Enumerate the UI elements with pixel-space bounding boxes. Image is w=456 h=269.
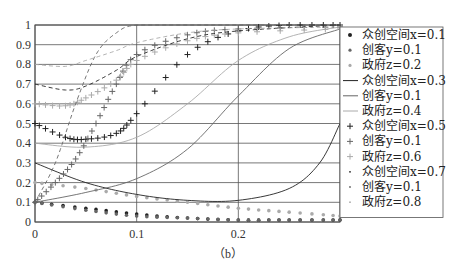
y-tick-label: 0.4 — [16, 136, 31, 150]
series-marker — [125, 193, 129, 197]
legend-item-label: 众创空间x=0.3 — [362, 74, 446, 88]
series-marker — [298, 218, 302, 222]
legend-item-label: 政府z=0.8 — [362, 194, 421, 209]
legend-item-label: 众创空间x=0.7 — [362, 165, 446, 179]
series-marker — [237, 206, 241, 210]
series-marker — [84, 208, 88, 212]
series-marker — [84, 187, 88, 191]
series-marker — [322, 218, 326, 222]
series-marker — [135, 214, 139, 218]
series-marker — [206, 203, 210, 207]
series-marker — [186, 216, 190, 220]
series-marker — [226, 218, 230, 222]
legend-item-label: 政府z=0.2 — [362, 57, 421, 72]
series-marker — [104, 190, 108, 194]
y-tick-label: 0.6 — [16, 97, 31, 111]
series-marker — [226, 205, 230, 209]
series-marker — [257, 218, 261, 222]
series-marker — [216, 218, 220, 222]
figure-caption: （b） — [0, 244, 456, 262]
series-marker — [135, 195, 139, 199]
series-marker — [73, 185, 77, 189]
series-marker — [310, 212, 314, 216]
series-marker — [33, 181, 37, 185]
series-marker — [115, 191, 119, 195]
series-marker — [298, 211, 302, 215]
series-marker — [73, 207, 77, 211]
legend-item-label: 创客y=0.1 — [362, 133, 422, 148]
series-line — [35, 27, 340, 67]
y-tick-label: 0.7 — [16, 77, 31, 91]
series-marker — [267, 218, 271, 222]
series-marker — [247, 218, 251, 222]
y-tick-label: 0.5 — [16, 117, 31, 131]
plot-series — [32, 22, 343, 222]
legend: 众创空间x=0.1创客y=0.1政府z=0.2众创空间x=0.3创客y=0.1政… — [340, 27, 446, 217]
series-marker — [206, 217, 210, 221]
legend-item-label: 政府z=0.6 — [362, 149, 421, 164]
series-marker — [331, 214, 335, 218]
y-tick-label: 0 — [25, 215, 31, 229]
y-tick-label: 0.1 — [16, 195, 31, 209]
series-marker — [115, 212, 119, 216]
axis-ticks: 00.10.20.30.40.50.60.70.80.9100.10.2 — [16, 18, 246, 241]
x-tick-label: 0.1 — [129, 227, 144, 241]
series-marker — [237, 218, 241, 222]
series-marker — [196, 202, 200, 206]
y-tick-label: 0.3 — [16, 156, 31, 170]
series-marker — [186, 201, 190, 205]
y-tick-label: 1 — [25, 18, 31, 32]
legend-item-label: 创客y=0.1 — [362, 88, 422, 103]
series-marker — [61, 184, 65, 188]
series-marker — [50, 183, 54, 187]
series-marker — [257, 208, 261, 212]
y-tick-label: 0.2 — [16, 176, 31, 190]
x-tick-label: 0 — [32, 227, 38, 241]
series-marker — [176, 216, 180, 220]
series-marker — [155, 215, 159, 219]
series-marker — [287, 218, 291, 222]
chart: 00.10.20.30.40.50.60.70.80.9100.10.2 众创空… — [0, 0, 456, 269]
series-marker — [310, 218, 314, 222]
series-marker — [125, 213, 129, 217]
legend-item-label: 政府z=0.4 — [362, 103, 422, 118]
series-marker — [277, 210, 281, 214]
series-marker — [196, 217, 200, 221]
series-marker — [322, 213, 326, 217]
series-marker — [50, 203, 54, 207]
series-marker — [277, 218, 281, 222]
legend-item-label: 创客y=0.1 — [362, 179, 422, 194]
series-marker — [338, 218, 342, 222]
series-marker — [104, 211, 108, 215]
series-marker — [61, 205, 65, 209]
series-line — [35, 124, 340, 202]
series-marker — [165, 216, 169, 220]
series-marker — [247, 207, 251, 211]
series-marker — [145, 215, 149, 219]
legend-item-label: 众创空间x=0.5 — [362, 119, 446, 133]
series-marker — [267, 209, 271, 213]
series-marker — [216, 204, 220, 208]
series-marker — [40, 182, 44, 186]
series-marker — [40, 202, 44, 206]
legend-item-label: 众创空间x=0.1 — [362, 28, 446, 42]
x-tick-label: 0.2 — [231, 227, 246, 241]
legend-item-label: 创客y=0.1 — [362, 42, 422, 57]
series-marker — [94, 210, 98, 214]
y-tick-label: 0.9 — [16, 38, 31, 52]
y-tick-label: 0.8 — [16, 57, 31, 71]
series-marker — [331, 218, 335, 222]
series-marker — [287, 210, 291, 214]
